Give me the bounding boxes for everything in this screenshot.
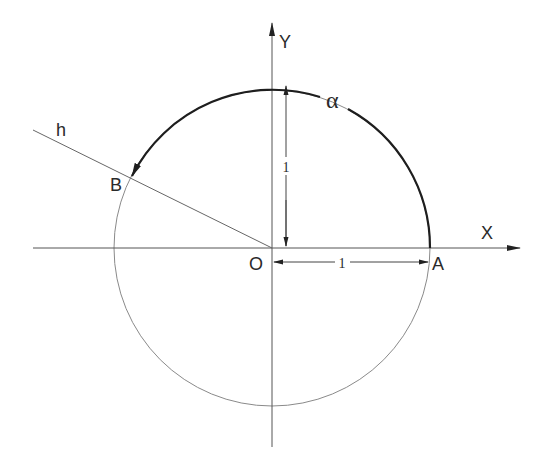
label-ray-h: h <box>56 120 66 140</box>
label-radius-vertical: 1 <box>283 160 290 175</box>
label-point-a: A <box>432 254 444 274</box>
label-angle-alpha: α <box>326 87 339 113</box>
label-point-b: B <box>110 175 122 195</box>
label-origin: O <box>249 254 263 274</box>
label-x-axis: X <box>481 223 493 243</box>
angle-arc-alpha-lower <box>348 109 430 248</box>
label-radius-horizontal: 1 <box>339 256 346 271</box>
ray-h <box>33 130 272 248</box>
unit-circle-diagram: 1 1 Y X O A B h α <box>0 0 542 470</box>
label-y-axis: Y <box>279 32 291 52</box>
